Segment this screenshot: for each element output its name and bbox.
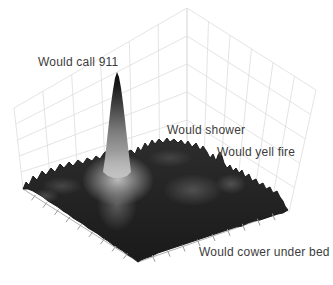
surface-plot-canvas [0, 0, 333, 285]
annotation-yell-fire: Would yell fire [217, 146, 295, 159]
annotation-cower-bed: Would cower under bed [199, 246, 330, 259]
3d-surface-figure: Would call 911 Would shower Would yell f… [0, 0, 333, 285]
annotation-call-911: Would call 911 [38, 56, 118, 69]
annotation-shower: Would shower [167, 124, 245, 137]
